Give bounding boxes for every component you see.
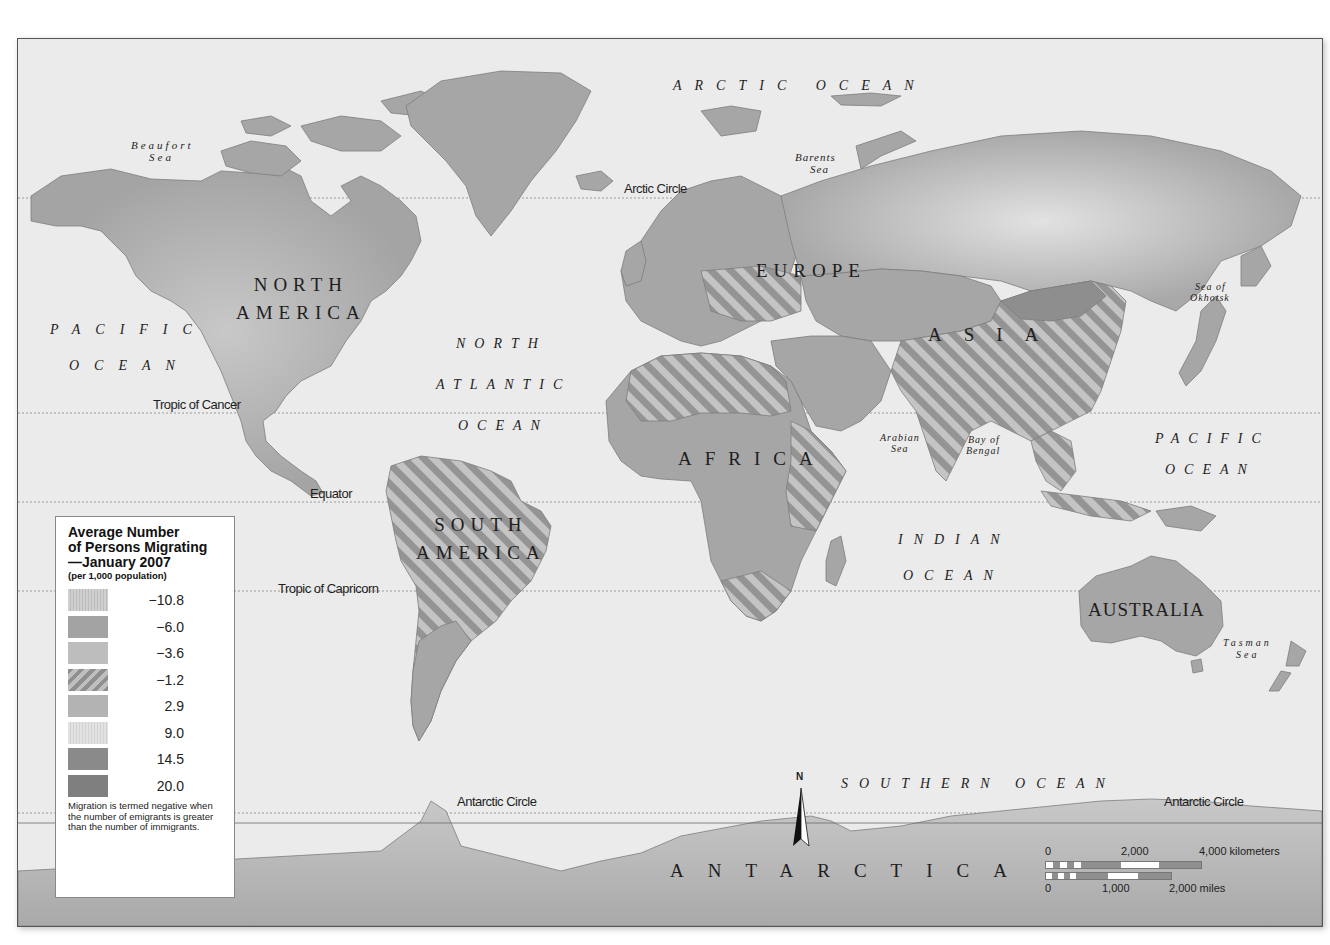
label-beaufort-2: Sea bbox=[149, 151, 174, 163]
label-equator: Equator bbox=[310, 486, 352, 501]
legend-swatch bbox=[68, 669, 108, 691]
label-indian-2: OCEAN bbox=[903, 561, 1004, 591]
legend-item: −10.8 bbox=[68, 587, 226, 614]
legend-title-2: of Persons Migrating bbox=[68, 540, 226, 555]
label-south-america: SOUTH AMERICA bbox=[416, 511, 546, 567]
label-indian-1: INDIAN bbox=[898, 525, 1011, 555]
label-north-atlantic-2: ATLANTIC bbox=[436, 370, 571, 400]
legend-value: 14.5 bbox=[116, 751, 226, 767]
scale-mi-bar bbox=[1045, 872, 1172, 880]
legend-swatch bbox=[68, 589, 108, 611]
legend-swatch bbox=[68, 722, 108, 744]
label-arctic-ocean: ARCTIC OCEAN bbox=[673, 71, 927, 101]
label-pacific-west-2: OCEAN bbox=[69, 351, 190, 381]
north-arrow-label: N bbox=[796, 771, 803, 782]
legend-swatch bbox=[68, 748, 108, 770]
legend-note: Migration is termed negative when the nu… bbox=[68, 801, 226, 833]
label-pacific-east-1: PACIFIC bbox=[1155, 424, 1270, 454]
label-north-atlantic-1: NORTH bbox=[456, 329, 547, 359]
legend-item: 14.5 bbox=[68, 746, 226, 773]
legend-swatch bbox=[68, 616, 108, 638]
legend-item: 20.0 bbox=[68, 773, 226, 800]
label-arctic-circle: Arctic Circle bbox=[624, 181, 687, 196]
label-southern-ocean: SOUTHERN OCEAN bbox=[841, 769, 1116, 799]
legend-subtitle: (per 1,000 population) bbox=[68, 570, 226, 581]
label-antarctica: ANTARCTICA bbox=[670, 857, 1031, 885]
label-beaufort-1: Beaufort bbox=[131, 139, 194, 151]
label-europe: EUROPE bbox=[756, 257, 866, 285]
label-pacific-east-2: OCEAN bbox=[1165, 455, 1256, 485]
legend: Average Number of Persons Migrating —Jan… bbox=[55, 516, 235, 898]
label-tasman-1: Tasman bbox=[1223, 637, 1272, 649]
label-barents-2: Sea bbox=[810, 163, 829, 175]
legend-item: −1.2 bbox=[68, 667, 226, 694]
legend-item: 2.9 bbox=[68, 693, 226, 720]
label-antarctic-circle-east: Antarctic Circle bbox=[1164, 794, 1243, 809]
scale-mi-mid: 1,000 bbox=[1102, 882, 1130, 894]
legend-value: −1.2 bbox=[116, 672, 226, 688]
legend-value: 2.9 bbox=[116, 698, 226, 714]
scale-km-end: 4,000 kilometers bbox=[1199, 845, 1280, 857]
legend-swatch bbox=[68, 775, 108, 797]
scale-mi-0: 0 bbox=[1045, 882, 1051, 894]
label-bengal-2: Bengal bbox=[966, 445, 1000, 457]
label-africa: AFRICA bbox=[678, 445, 826, 473]
label-barents-1: Barents bbox=[795, 151, 836, 163]
legend-value: −10.8 bbox=[116, 592, 226, 608]
legend-value: −6.0 bbox=[116, 619, 226, 635]
label-north-america: NORTH AMERICA bbox=[236, 271, 366, 327]
label-pacific-west-1: PACIFIC bbox=[50, 315, 207, 345]
legend-title-1: Average Number bbox=[68, 525, 226, 540]
legend-value: 9.0 bbox=[116, 725, 226, 741]
legend-value: 20.0 bbox=[116, 778, 226, 794]
label-asia: ASIA bbox=[928, 321, 1060, 349]
legend-item: −6.0 bbox=[68, 614, 226, 641]
scale-km-mid: 2,000 bbox=[1121, 845, 1149, 857]
label-tasman-2: Sea bbox=[1236, 649, 1259, 661]
label-australia: AUSTRALIA bbox=[1088, 596, 1205, 624]
scale-bar: 0 2,000 4,000 kilometers 0 1,000 2,000 m… bbox=[1045, 845, 1295, 896]
scale-mi-end: 2,000 miles bbox=[1169, 882, 1225, 894]
legend-item: −3.6 bbox=[68, 640, 226, 667]
legend-value: −3.6 bbox=[116, 645, 226, 661]
label-antarctic-circle-west: Antarctic Circle bbox=[457, 794, 536, 809]
label-okhotsk-2: Okhotsk bbox=[1190, 292, 1230, 304]
label-tropic-of-cancer: Tropic of Cancer bbox=[153, 397, 241, 412]
legend-swatch bbox=[68, 642, 108, 664]
label-arabian-2: Sea bbox=[891, 443, 908, 455]
scale-km-bar bbox=[1045, 861, 1202, 869]
legend-title-3: —January 2007 bbox=[68, 555, 226, 570]
legend-swatch bbox=[68, 695, 108, 717]
label-tropic-of-capricorn: Tropic of Capricorn bbox=[278, 581, 379, 596]
label-north-atlantic-3: OCEAN bbox=[458, 411, 549, 441]
scale-km-0: 0 bbox=[1045, 845, 1051, 857]
legend-item: 9.0 bbox=[68, 720, 226, 747]
